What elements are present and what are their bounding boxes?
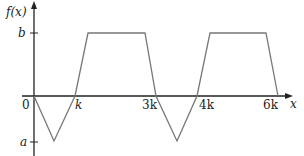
y-axis-label: f(x) (5, 5, 27, 19)
x-axis-label: x (290, 97, 297, 111)
b-label: b (18, 26, 26, 40)
y-axis-arrow-icon (31, 1, 37, 9)
3k-label: 3k (142, 98, 158, 112)
6k-label: 6k (263, 98, 279, 112)
k-label: k (75, 98, 82, 112)
function-graph: f(x) x 0 b a k 3k 4k 6k (0, 0, 304, 156)
origin-label: 0 (22, 98, 30, 112)
4k-label: 4k (199, 98, 215, 112)
a-label: a (20, 135, 27, 149)
function-curve (34, 33, 278, 141)
